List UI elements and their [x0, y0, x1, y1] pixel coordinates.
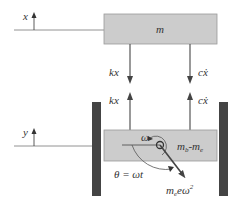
- x-label: x: [22, 10, 28, 22]
- left-wall: [92, 102, 101, 196]
- y-label: y: [22, 126, 28, 138]
- top-forces: kx cẋ: [109, 44, 208, 80]
- theta-equation: θ = ωt: [114, 168, 144, 180]
- top-mass-label: m: [156, 23, 164, 35]
- x-coordinate: x: [14, 10, 104, 30]
- diagram-canvas: x m kx cẋ kx cẋ y mb-me ω: [0, 0, 241, 209]
- bottom-forces: kx cẋ: [109, 94, 208, 130]
- bottom-mass-label: mb-me: [177, 140, 203, 154]
- top-mass-box: m: [104, 14, 217, 44]
- damper-force-label-top: cẋ: [198, 66, 208, 78]
- damper-force-label-bottom: cẋ: [198, 94, 208, 106]
- centrifugal-force-label: meeω2: [166, 183, 194, 198]
- spring-force-label-top: kx: [109, 66, 119, 78]
- right-wall: [219, 102, 228, 196]
- omega-label: ω: [141, 131, 149, 143]
- spring-force-label-bottom: kx: [109, 94, 119, 106]
- y-coordinate: y: [14, 126, 92, 146]
